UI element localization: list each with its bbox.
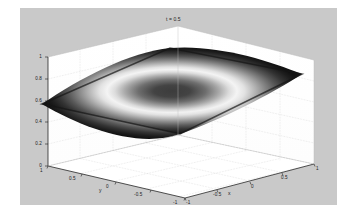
- x-tick-label: -1: [186, 201, 190, 206]
- surface-plot-canvas: [20, 8, 337, 205]
- x-tick-label: 0: [251, 185, 254, 190]
- y-tick-label: 0.5: [69, 177, 76, 182]
- y-tick-label: 0: [106, 185, 109, 190]
- plot-title: t = 0.5: [166, 17, 181, 22]
- z-tick-label: 1: [30, 55, 42, 60]
- y-axis-label: y: [99, 188, 102, 193]
- z-tick-label: 0.2: [26, 142, 42, 147]
- x-tick-label: -0.5: [213, 193, 221, 198]
- matlab-figure-window: t = 0.5 1 0.8 0.6 0.4 0.2 0 1 0.5 0 -0.5…: [20, 8, 337, 205]
- z-tick-label: 0.8: [26, 77, 42, 82]
- y-tick-label: -1: [173, 201, 177, 206]
- x-tick-label: 0.5: [281, 176, 288, 181]
- y-tick-label: 1: [40, 169, 43, 174]
- screenshot-root: t = 0.5 1 0.8 0.6 0.4 0.2 0 1 0.5 0 -0.5…: [0, 0, 357, 224]
- y-tick-label: -0.5: [134, 193, 142, 198]
- x-tick-label: 1: [316, 167, 319, 172]
- z-tick-label: 0.6: [26, 99, 42, 104]
- z-tick-label: 0.4: [26, 120, 42, 125]
- x-axis-label: x: [228, 191, 231, 196]
